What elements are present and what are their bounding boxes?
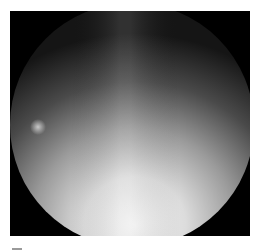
small-mark <box>12 248 22 250</box>
bright-spot <box>30 119 46 135</box>
image-frame <box>10 11 250 236</box>
circular-field <box>10 11 250 236</box>
